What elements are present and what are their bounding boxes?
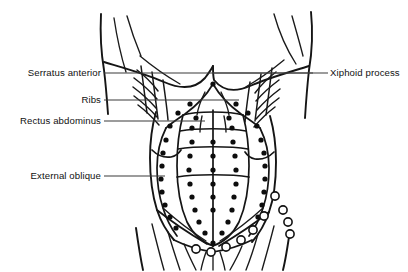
marker-point-filled [210, 139, 215, 144]
marker-point-filled [175, 110, 180, 115]
marker-point-filled [219, 230, 224, 235]
left-arm-outer-line [101, 14, 108, 114]
marker-point-filled [210, 181, 215, 186]
marker-point-filled [189, 139, 194, 144]
marker-point-filled [159, 163, 164, 168]
label-xiphoid-process: Xiphoid process [330, 67, 400, 78]
marker-point-filled [259, 202, 264, 207]
marker-point-filled [261, 150, 266, 155]
marker-point-filled [163, 137, 168, 142]
marker-point-filled [160, 150, 165, 155]
thigh-left-outer [136, 228, 143, 270]
marker-point-filled [193, 115, 198, 120]
marker-point-open [284, 218, 292, 226]
marker-point-open [279, 206, 287, 214]
marker-point-filled [167, 123, 172, 128]
thigh-right-mid [262, 226, 274, 270]
label-rectus-abdominus: Rectus abdominus [20, 115, 101, 126]
marker-point-filled [225, 219, 230, 224]
serratus-rib-right-a [266, 68, 272, 115]
marker-point-filled [210, 194, 215, 199]
marker-point-filled [210, 207, 215, 212]
marker-point-filled [231, 194, 236, 199]
marker-point-filled [245, 110, 250, 115]
anatomy-diagram-canvas: Serratus anteriorRibsRectus abdominusExt… [0, 0, 408, 272]
marker-point-filled [158, 176, 163, 181]
marker-point-filled [226, 115, 231, 120]
marker-point-filled [159, 189, 164, 194]
left-axilla-fold [127, 16, 141, 56]
marker-point-open [222, 243, 230, 251]
marker-point-open [271, 192, 279, 200]
marker-point-filled [210, 240, 215, 245]
thigh-left-inner [168, 232, 180, 270]
marker-point-filled [210, 167, 215, 172]
marker-point-open [249, 226, 257, 234]
right-axilla-fold [292, 16, 303, 56]
right-arm-inner-line [274, 14, 296, 64]
marker-point-filled [187, 181, 192, 186]
rectus-left-lateral-border [177, 115, 213, 246]
arm-outlines [101, 12, 312, 118]
label-ribs: Ribs [81, 94, 101, 105]
marker-point-filled [254, 123, 259, 128]
marker-point-filled [233, 181, 238, 186]
marker-point-filled [229, 125, 234, 130]
thigh-left-mid [152, 224, 164, 270]
right-arm-outer-line [305, 12, 312, 118]
marker-point-filled [262, 163, 267, 168]
marker-point-filled [230, 139, 235, 144]
marker-point-filled [189, 125, 194, 130]
marker-point-filled [173, 225, 178, 230]
rectus-right-lateral-border [213, 115, 249, 246]
marker-point-filled [229, 207, 234, 212]
rectus-abdominus-sheath [177, 110, 249, 246]
marker-point-filled [187, 101, 192, 106]
marker-point-filled [210, 153, 215, 158]
marker-point-open [260, 212, 268, 220]
label-serratus-anterior: Serratus anterior [28, 67, 102, 78]
marker-point-filled [192, 207, 197, 212]
marker-point-open [192, 245, 200, 253]
marker-point-filled [187, 153, 192, 158]
anatomy-figure: Serratus anteriorRibsRectus abdominusExt… [0, 0, 408, 272]
marker-point-filled [261, 189, 266, 194]
marker-point-open [286, 230, 294, 238]
perineal-line-right [220, 252, 225, 270]
marker-point-open [207, 248, 215, 256]
marker-point-filled [196, 219, 201, 224]
marker-point-filled [262, 176, 267, 181]
marker-point-filled [210, 81, 215, 86]
marker-point-filled [258, 137, 263, 142]
marker-point-filled [232, 153, 237, 158]
left-pectoral-contour [104, 62, 213, 87]
perineal-line-left [201, 252, 206, 270]
marker-point-filled [233, 101, 238, 106]
marker-point-filled [186, 167, 191, 172]
anatomy-labels: Serratus anteriorRibsRectus abdominusExt… [20, 67, 400, 181]
left-arm-inner-line [114, 18, 126, 72]
marker-point-filled [233, 167, 238, 172]
marker-point-open [237, 236, 245, 244]
groin-crease-right [230, 246, 242, 270]
marker-point-filled [189, 194, 194, 199]
marker-point-filled [162, 202, 167, 207]
label-external-oblique: External oblique [31, 170, 101, 181]
marker-point-filled [167, 214, 172, 219]
marker-point-filled [202, 230, 207, 235]
